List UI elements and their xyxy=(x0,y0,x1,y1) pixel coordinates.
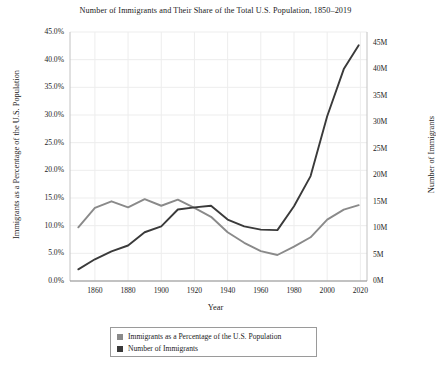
y-axis-left-tick: 0.0% xyxy=(24,276,64,285)
y-axis-right-tick: 10M xyxy=(373,223,413,232)
legend-label-percentage: Immigrants as a Percentage of the U.S. P… xyxy=(128,333,281,341)
y-axis-right-tick: 0M xyxy=(373,276,413,285)
y-axis-right-tick: 20M xyxy=(373,170,413,179)
y-axis-left-tick: 5.0% xyxy=(24,248,64,257)
y-axis-left-tick: 25.0% xyxy=(24,138,64,147)
y-axis-right-tick: 35M xyxy=(373,91,413,100)
chart-legend: Immigrants as a Percentage of the U.S. P… xyxy=(110,327,317,357)
y-axis-right-tick: 25M xyxy=(373,144,413,153)
legend-item-percentage: Immigrants as a Percentage of the U.S. P… xyxy=(117,331,310,343)
y-axis-left-tick: 10.0% xyxy=(24,221,64,230)
y-axis-left-tick: 45.0% xyxy=(24,27,64,36)
y-axis-right-tick: 5M xyxy=(373,250,413,259)
legend-label-number: Number of Immigrants xyxy=(128,345,198,353)
y-axis-right-tick: 15M xyxy=(373,197,413,206)
y-axis-right-tick: 40M xyxy=(373,64,413,73)
y-axis-left-tick: 30.0% xyxy=(24,110,64,119)
plot-frame xyxy=(70,32,367,281)
data-series-layer xyxy=(78,45,358,269)
y-axis-left-tick: 20.0% xyxy=(24,165,64,174)
x-axis-tick: 2020 xyxy=(340,286,380,295)
legend-swatch-percentage xyxy=(117,334,123,340)
y-axis-left-tick: 35.0% xyxy=(24,82,64,91)
y-axis-left-tick: 40.0% xyxy=(24,55,64,64)
legend-item-number: Number of Immigrants xyxy=(117,343,310,355)
gridlines xyxy=(70,32,367,281)
legend-swatch-number xyxy=(117,346,123,352)
y-axis-right-tick: 45M xyxy=(373,38,413,47)
y-axis-left-tick: 15.0% xyxy=(24,193,64,202)
y-axis-right-tick: 30M xyxy=(373,117,413,126)
